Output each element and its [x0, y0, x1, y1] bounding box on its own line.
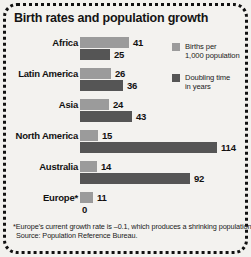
- footnote-europe-note: *Europe's current growth rate is –0.1, w…: [13, 222, 241, 231]
- bar-doubling: [80, 80, 123, 91]
- category-label: Australia: [39, 161, 78, 172]
- bar-value-doubling: 25: [114, 49, 124, 60]
- bar-value-doubling: 114: [221, 142, 236, 153]
- legend-label-births-line2: 1,000 population: [185, 51, 248, 60]
- bar-value-births: 11: [97, 192, 107, 203]
- bar-births: [80, 37, 129, 48]
- bar-value-doubling: 43: [136, 111, 146, 122]
- chart-figure: Birth rates and population growth Africa…: [0, 0, 251, 257]
- bar-doubling: [80, 173, 190, 184]
- category-label: North America: [15, 130, 78, 141]
- bar-value-births: 15: [102, 130, 112, 141]
- legend-label-doubling-line1: Doubling time: [185, 73, 248, 82]
- footnote-source: Source: Population Reference Bureau.: [13, 231, 241, 240]
- bar-births: [80, 130, 98, 141]
- bar-value-births: 14: [101, 161, 111, 172]
- category-label: Latin America: [18, 68, 78, 79]
- bar-value-doubling: 0: [82, 204, 87, 215]
- chart-legend: Births per 1,000 population Doubling tim…: [172, 42, 248, 104]
- bar-doubling: [80, 49, 110, 60]
- category-label: Asia: [59, 99, 78, 110]
- bar-value-doubling: 36: [127, 80, 137, 91]
- bar-value-births: 24: [113, 99, 123, 110]
- category-label: Africa: [52, 37, 78, 48]
- legend-swatch-births-icon: [172, 43, 180, 51]
- bar-value-doubling: 92: [194, 173, 204, 184]
- category-label: Europe*: [43, 192, 78, 203]
- legend-label-births-line1: Births per: [185, 42, 248, 51]
- bar-births: [80, 161, 97, 172]
- bar-value-births: 41: [133, 37, 143, 48]
- legend-label-doubling-line2: in years: [185, 82, 248, 91]
- bar-births: [80, 192, 93, 203]
- bar-value-births: 26: [115, 68, 125, 79]
- chart-title: Birth rates and population growth: [14, 11, 208, 25]
- bar-doubling: [80, 142, 217, 153]
- chart-inner: Birth rates and population growth Africa…: [0, 0, 251, 257]
- chart-footnote: *Europe's current growth rate is –0.1, w…: [13, 222, 241, 241]
- bar-doubling: [80, 111, 132, 122]
- legend-item-births: Births per 1,000 population: [172, 42, 248, 62]
- legend-item-doubling: Doubling time in years: [172, 73, 248, 93]
- bar-births: [80, 68, 111, 79]
- legend-swatch-doubling-icon: [172, 74, 180, 82]
- bar-births: [80, 99, 109, 110]
